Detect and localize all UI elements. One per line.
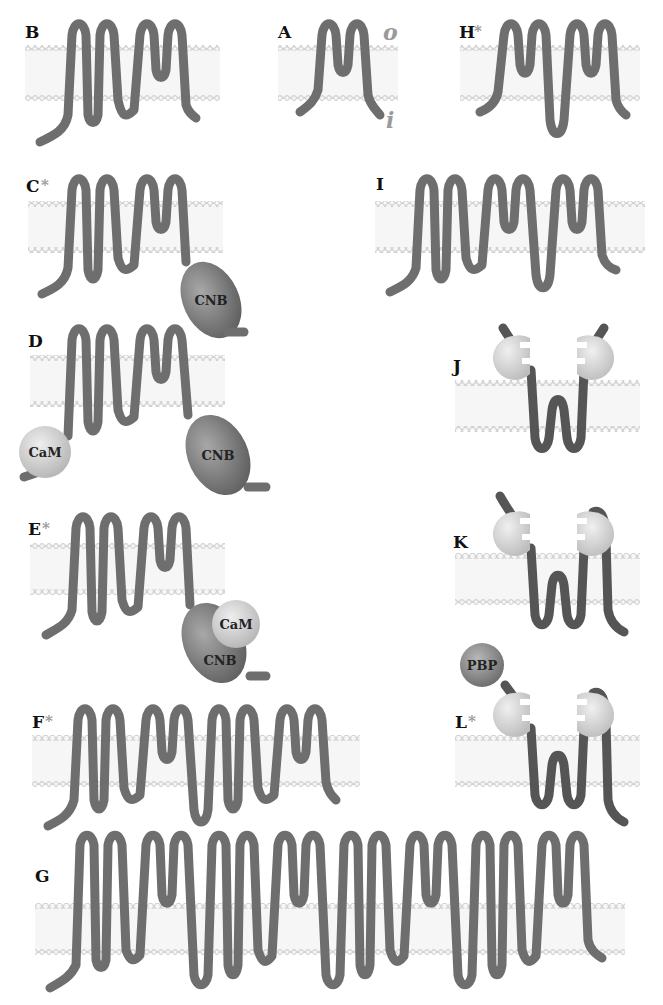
asterisk-h: *: [474, 22, 482, 40]
panel-label-d: D: [28, 331, 43, 351]
panel-j-pore-domains: [493, 335, 614, 380]
panel-label-j: J: [451, 356, 461, 376]
membrane: [30, 545, 225, 593]
panel-label-f: F: [32, 712, 44, 732]
panel-label-i: I: [376, 174, 384, 194]
asterisk-e: *: [42, 519, 50, 537]
membrane-outer-leaflet: [455, 735, 640, 741]
panel-k-pore-domains: [493, 511, 614, 556]
pore-binding-domain-left: [493, 511, 530, 556]
ion-channel-topology-figure: CNB CaM CNB CaM CNB PBP B A H * C * I D …: [0, 0, 663, 1005]
panel-label-h: H: [459, 22, 475, 42]
inside-label: i: [386, 107, 394, 133]
panel-label-b: B: [25, 22, 39, 42]
panel-label-a: A: [277, 22, 292, 42]
panel-label-l: L: [455, 712, 467, 732]
panel-j: [455, 328, 640, 449]
panel-label-c: C: [26, 176, 40, 196]
cnb-label: CNB: [194, 293, 227, 308]
pore-binding-domain-left: [493, 335, 530, 380]
membrane-outer-leaflet: [30, 355, 225, 361]
membrane-inner-leaflet: [30, 589, 225, 595]
pbp-label: PBP: [467, 658, 498, 673]
pore-binding-domain-right: [577, 335, 614, 380]
membrane-outer-leaflet: [455, 553, 640, 559]
panel-i: [375, 179, 645, 292]
panel-a: [278, 24, 398, 115]
membrane: [25, 47, 220, 99]
membrane: [30, 357, 225, 405]
panel-k: [455, 496, 640, 632]
cnb-label: CNB: [201, 448, 234, 463]
panel-label-g: G: [35, 866, 50, 886]
pore-binding-domain-left: [493, 692, 530, 737]
panel-b: [25, 24, 220, 142]
outside-label: o: [383, 19, 398, 45]
membrane-inner-leaflet: [28, 247, 223, 253]
panel-f: [32, 709, 360, 826]
panel-label-k: K: [453, 532, 469, 552]
panel-label-e: E: [28, 519, 41, 539]
panel-d-domains: CaM CNB: [19, 404, 263, 505]
cam-label: CaM: [28, 445, 61, 460]
membrane-inner-leaflet: [278, 95, 398, 101]
membrane: [28, 203, 223, 251]
membrane-outer-leaflet: [25, 45, 220, 51]
asterisk-f: *: [45, 712, 53, 730]
cam-label: CaM: [219, 617, 252, 632]
panel-h: [460, 24, 640, 134]
cnb-label: CNB: [203, 653, 236, 668]
membrane-inner-leaflet: [30, 401, 225, 407]
membrane-outer-leaflet: [455, 380, 640, 386]
asterisk-c: *: [41, 176, 49, 194]
panel-l: [455, 685, 640, 822]
membrane-outer-leaflet: [28, 201, 223, 207]
membrane-outer-leaflet: [30, 543, 225, 549]
panel-g: [35, 835, 625, 988]
asterisk-l: *: [468, 712, 476, 730]
